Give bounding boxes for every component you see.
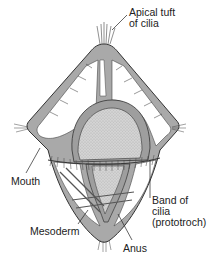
apical-tuft-cilia bbox=[97, 22, 115, 44]
label-mesoderm: Mesoderm bbox=[30, 226, 80, 237]
label-band-line3: (prototroch) bbox=[152, 217, 206, 228]
label-band-of-cilia: Band of cilia (prototroch) bbox=[152, 195, 206, 228]
label-mouth: Mouth bbox=[11, 176, 40, 187]
label-anus: Anus bbox=[123, 243, 147, 254]
label-apical-tuft-line2: of cilia bbox=[129, 18, 175, 29]
label-apical-tuft: Apical tuft of cilia bbox=[129, 7, 175, 29]
